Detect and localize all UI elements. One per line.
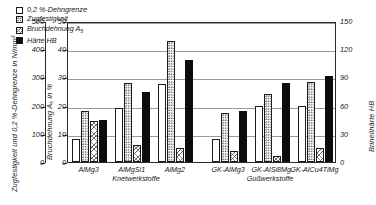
bar — [99, 120, 107, 162]
axis-tickmark — [63, 135, 67, 136]
legend-swatch-solid-icon — [16, 37, 23, 44]
bar — [81, 111, 89, 162]
bar — [264, 94, 272, 162]
bar — [230, 151, 238, 162]
category-label-almg3: AlMg3 — [78, 166, 98, 174]
bar — [282, 83, 290, 162]
legend-item: Härte HB — [16, 37, 87, 45]
axis-tickmark — [41, 78, 45, 79]
bar — [255, 106, 263, 162]
tick-right-0: 0 — [340, 159, 344, 166]
axis-tickmark — [41, 135, 45, 136]
bar-group — [251, 23, 294, 162]
category-label-almgsi1: AlMgSi1 — [118, 166, 145, 174]
bar-group — [294, 23, 337, 162]
axis-tickmark — [41, 107, 45, 108]
legend-swatch-dot-icon — [16, 16, 23, 23]
axis-tickmark — [41, 163, 45, 164]
category-label-gk-alcu4timg: GK-AlCu4TiMg — [290, 166, 338, 174]
axis-tickmark — [63, 50, 67, 51]
section-title-knetwerkstoffe: Knetwerkstoffe — [112, 175, 160, 183]
legend-swatch-hatch-icon — [16, 27, 23, 34]
category-label-almg2: AlMg2 — [165, 166, 185, 174]
axis-tickmark — [41, 22, 45, 23]
category-axis-labels: AlMg3AlMgSi1AlMg2GK-AlMg3GK-AlSi8MgGK-Al… — [67, 166, 336, 178]
bar — [115, 108, 123, 162]
tick-right-30: 30 — [340, 131, 348, 138]
axis-tickmark — [63, 78, 67, 79]
bar-group — [111, 23, 154, 162]
plot-area — [67, 22, 336, 163]
legend-swatch-plain-icon — [16, 7, 23, 14]
bar — [167, 41, 175, 162]
legend-label: Bruchdehnung A5 — [27, 25, 83, 35]
bar — [90, 121, 98, 162]
legend-item: Bruchdehnung A5 — [16, 25, 87, 35]
bar — [212, 139, 220, 162]
bar — [185, 60, 193, 162]
bar — [124, 83, 132, 162]
legend-label: 0,2 %-Dehngrenze — [27, 6, 87, 14]
axis-tickmark — [63, 107, 67, 108]
legend-label-subscript: 5 — [80, 28, 83, 34]
tick-right-150: 150 — [340, 18, 352, 25]
legend: 0,2 %-DehngrenzeZugfestigkeitBruchdehnun… — [16, 6, 87, 45]
bar — [72, 139, 80, 162]
bar-series-container — [68, 23, 335, 162]
bar — [142, 92, 150, 163]
category-label-gk-almg3: GK-AlMg3 — [212, 166, 245, 174]
legend-label: Härte HB — [27, 37, 57, 45]
bar — [273, 156, 281, 162]
bar-group — [208, 23, 251, 162]
bar — [239, 111, 247, 162]
bar — [316, 148, 324, 162]
bar — [325, 76, 333, 162]
legend-item: Zugfestigkeit — [16, 15, 87, 23]
tick-right-90: 90 — [340, 75, 348, 82]
bar — [221, 113, 229, 162]
bar — [176, 148, 184, 162]
tick-right-120: 120 — [340, 46, 352, 53]
bar — [307, 82, 315, 162]
bar — [133, 145, 141, 162]
tick-right-60: 60 — [340, 103, 348, 110]
axis-tickmark — [41, 50, 45, 51]
section-title-gusswerkstoffe: Gußwerkstoffe — [247, 175, 294, 183]
legend-label: Zugfestigkeit — [27, 15, 68, 23]
bar-group — [154, 23, 197, 162]
axis-tickmark — [63, 163, 67, 164]
bar — [298, 106, 306, 162]
bar — [158, 84, 166, 162]
right-axis-ticks: 0306090120150 — [336, 0, 370, 205]
axis-tickmark — [63, 22, 67, 23]
category-label-gk-alsi8mg: GK-AlSi8Mg — [251, 166, 291, 174]
legend-item: 0,2 %-Dehngrenze — [16, 6, 87, 14]
